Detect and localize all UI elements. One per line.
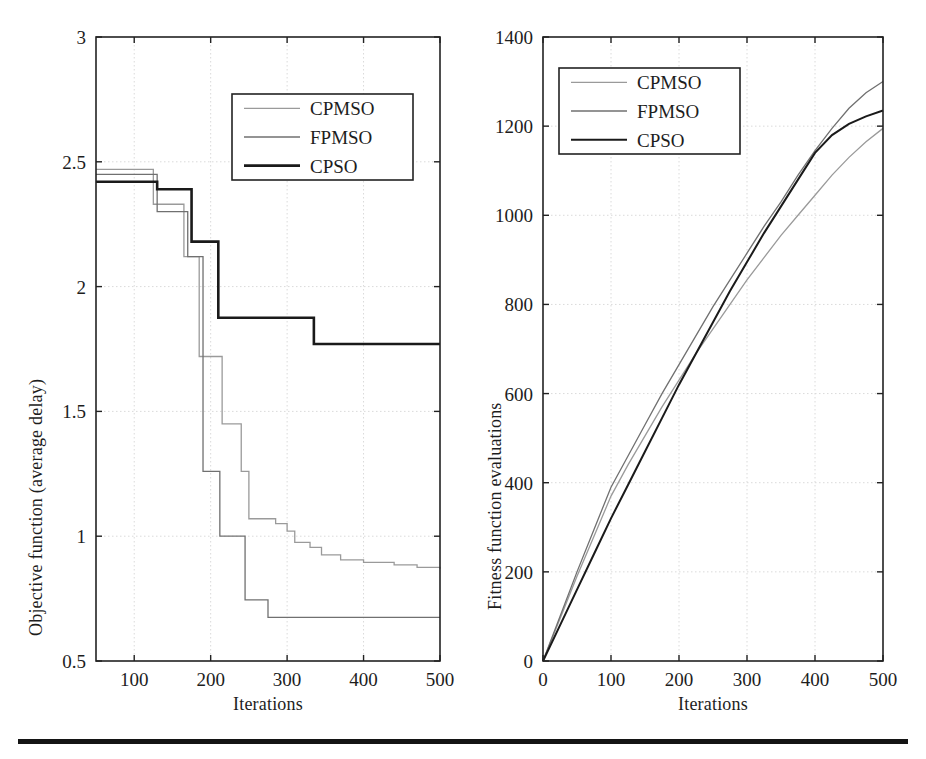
x-tick-label: 200	[196, 669, 225, 690]
legend-label-fpmso: FPMSO	[310, 127, 372, 148]
x-tick-label: 200	[665, 669, 694, 690]
y-tick-label: 200	[505, 562, 534, 583]
x-tick-label: 400	[801, 669, 830, 690]
x-tick-label: 0	[538, 669, 548, 690]
x-tick-label: 100	[120, 669, 149, 690]
y-tick-label: 0	[524, 651, 534, 672]
series-line-cpso	[96, 182, 440, 344]
y-tick-label: 1	[77, 526, 87, 547]
y-tick-label: 2	[77, 277, 87, 298]
x-tick-label: 500	[869, 669, 898, 690]
x-tick-label: 100	[597, 669, 626, 690]
y-tick-label: 2.5	[62, 152, 86, 173]
fitness-plot-svg: 0100200300400500020040060080010001200140…	[463, 0, 926, 759]
y-tick-label: 1200	[495, 116, 533, 137]
legend-label-cpmso: CPMSO	[310, 98, 374, 119]
figure-container: 1002003004005000.511.522.53CPMSOFPMSOCPS…	[0, 0, 926, 759]
y-tick-label: 3	[77, 27, 87, 48]
x-tick-label: 400	[349, 669, 378, 690]
x-axis-label-left: Iterations	[96, 694, 440, 715]
series-line-fpmso	[96, 174, 440, 617]
x-tick-label: 300	[733, 669, 762, 690]
chart-panel-objective: 1002003004005000.511.522.53CPMSOFPMSOCPS…	[0, 0, 463, 759]
legend-label-cpso: CPSO	[310, 156, 358, 177]
bottom-horizontal-rule	[18, 739, 908, 744]
objective-plot-svg: 1002003004005000.511.522.53CPMSOFPMSOCPS…	[0, 0, 463, 759]
y-axis-label-right: Fitness function evaluations	[485, 402, 506, 610]
x-tick-label: 500	[426, 669, 455, 690]
chart-panel-fitness: 0100200300400500020040060080010001200140…	[463, 0, 926, 759]
x-axis-label-right: Iterations	[543, 694, 883, 715]
series-line-fpmso	[543, 82, 883, 661]
y-tick-label: 0.5	[62, 651, 86, 672]
y-tick-label: 1.5	[62, 401, 86, 422]
y-tick-label: 600	[505, 384, 534, 405]
series-line-cpmso	[543, 128, 883, 661]
x-tick-label: 300	[273, 669, 302, 690]
legend-label-fpmso: FPMSO	[637, 101, 699, 122]
y-tick-label: 1400	[495, 27, 533, 48]
legend-label-cpso: CPSO	[637, 130, 685, 151]
y-tick-label: 400	[505, 473, 534, 494]
legend-label-cpmso: CPMSO	[637, 72, 701, 93]
y-axis-label-left: Objective function (average delay)	[26, 379, 47, 636]
series-line-cpmso	[96, 169, 440, 568]
y-tick-label: 800	[505, 294, 534, 315]
y-tick-label: 1000	[495, 205, 533, 226]
series-line-cpso	[543, 111, 883, 661]
